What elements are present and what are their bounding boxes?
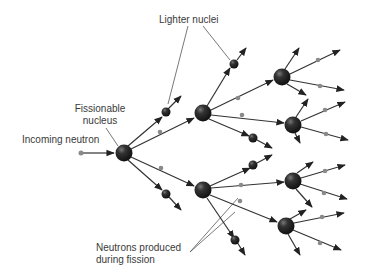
label-incoming-neutron: Incoming neutron (22, 134, 99, 146)
fissionable-nucleus (285, 117, 302, 134)
lighter-nucleus (231, 236, 240, 245)
label-neutrons-line2: during fission (96, 254, 181, 266)
fissionable-nucleus (278, 218, 295, 235)
incoming-neutron (79, 151, 84, 156)
fissionable-nucleus (274, 69, 291, 86)
lighter-nucleus (249, 161, 258, 170)
leader-lines (106, 26, 238, 252)
label-fissionable-nucleus: Fissionable nucleus (73, 103, 127, 127)
label-fissionable-line1: Fissionable (73, 103, 127, 115)
lighter-nucleus (162, 108, 171, 117)
fissionable-nucleus (116, 145, 133, 162)
lighter-nucleus (162, 190, 171, 199)
label-neutrons-line1: Neutrons produced (96, 242, 181, 254)
label-fissionable-line2: nucleus (73, 115, 127, 127)
fissionable-nucleus (195, 182, 212, 199)
lighter-nucleus (230, 60, 239, 69)
lighter-nucleus (249, 134, 258, 143)
label-neutrons-produced: Neutrons produced during fission (96, 242, 181, 266)
nuclei (116, 60, 302, 245)
label-lighter-nuclei: Lighter nuclei (159, 14, 218, 26)
fissionable-nucleus (195, 105, 212, 122)
fissionable-nucleus (285, 173, 302, 190)
